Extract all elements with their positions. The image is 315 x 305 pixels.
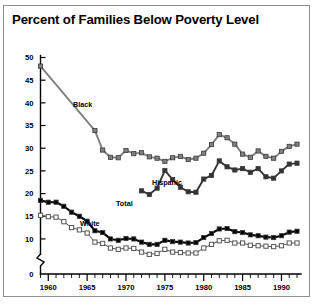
data-point-marker	[186, 190, 190, 194]
data-point-marker	[132, 246, 136, 250]
data-point-marker	[209, 242, 213, 246]
data-point-marker	[155, 242, 159, 246]
data-point-marker	[186, 241, 190, 245]
data-point-marker	[132, 237, 136, 241]
data-point-marker	[256, 234, 260, 238]
data-point-marker	[279, 244, 283, 248]
data-point-marker	[54, 200, 58, 204]
data-point-marker	[46, 215, 50, 219]
data-point-marker	[186, 157, 190, 161]
data-point-marker	[139, 151, 143, 155]
series-label-white: White	[80, 219, 100, 228]
series-black	[38, 64, 299, 163]
data-point-marker	[116, 247, 120, 251]
data-point-marker	[295, 241, 299, 245]
data-point-marker	[38, 64, 42, 68]
data-point-marker	[147, 252, 151, 256]
data-point-marker	[194, 240, 198, 244]
data-point-marker	[171, 240, 175, 244]
data-point-marker	[163, 159, 167, 163]
poverty-line-chart: 0101520253035404550196019651970197519801…	[0, 0, 315, 305]
data-point-marker	[108, 155, 112, 159]
data-point-marker	[279, 234, 283, 238]
data-point-marker	[225, 238, 229, 242]
x-axis-tick-label: 1975	[156, 283, 174, 292]
data-point-marker	[54, 215, 58, 219]
data-point-marker	[256, 167, 260, 171]
data-point-marker	[93, 240, 97, 244]
data-point-marker	[217, 133, 221, 137]
data-point-marker	[77, 228, 81, 232]
data-point-marker	[240, 230, 244, 234]
data-point-marker	[248, 243, 252, 247]
data-point-marker	[163, 247, 167, 251]
data-point-marker	[139, 250, 143, 254]
data-point-marker	[248, 233, 252, 237]
data-point-marker	[240, 152, 244, 156]
data-point-marker	[217, 239, 221, 243]
y-axis-tick-label: 20	[25, 189, 33, 198]
data-point-marker	[287, 162, 291, 166]
data-point-marker	[209, 173, 213, 177]
x-axis-tick-label: 1980	[195, 283, 212, 292]
data-point-marker	[147, 192, 151, 196]
data-point-marker	[147, 242, 151, 246]
y-axis-tick-label: 45	[25, 76, 34, 85]
data-point-marker	[264, 235, 268, 239]
data-point-marker	[108, 246, 112, 250]
data-point-marker	[202, 246, 206, 250]
y-axis-tick-label: 30	[25, 144, 33, 153]
series-total	[38, 198, 299, 246]
data-point-marker	[116, 156, 120, 160]
data-point-marker	[272, 156, 276, 160]
data-point-marker	[155, 156, 159, 160]
data-point-marker	[256, 149, 260, 153]
data-point-marker	[233, 142, 237, 146]
data-point-marker	[38, 198, 42, 202]
y-axis-tick-label: 35	[25, 121, 34, 130]
data-point-marker	[272, 245, 276, 249]
data-point-marker	[147, 155, 151, 159]
data-point-marker	[178, 154, 182, 158]
data-point-marker	[225, 226, 229, 230]
data-point-marker	[217, 159, 221, 163]
data-point-marker	[279, 149, 283, 153]
data-point-marker	[202, 235, 206, 239]
data-point-marker	[194, 190, 198, 194]
series-label-total: Total	[116, 199, 133, 208]
data-point-marker	[272, 176, 276, 180]
data-point-marker	[178, 250, 182, 254]
data-point-marker	[295, 142, 299, 146]
x-axis-tick-label: 1965	[79, 283, 97, 292]
data-point-marker	[132, 152, 136, 156]
data-point-marker	[287, 230, 291, 234]
data-point-marker	[194, 251, 198, 255]
data-point-marker	[287, 144, 291, 148]
data-point-marker	[46, 200, 50, 204]
data-point-marker	[225, 136, 229, 140]
data-point-marker	[171, 250, 175, 254]
data-point-marker	[62, 204, 66, 208]
data-point-marker	[108, 237, 112, 241]
data-point-marker	[93, 128, 97, 132]
data-point-marker	[139, 189, 143, 193]
y-axis-tick-label: 40	[25, 99, 33, 108]
data-point-marker	[124, 246, 128, 250]
data-point-marker	[101, 241, 105, 245]
data-point-marker	[202, 177, 206, 181]
data-point-marker	[209, 231, 213, 235]
data-point-marker	[38, 213, 42, 217]
data-point-marker	[62, 220, 66, 224]
data-point-marker	[209, 142, 213, 146]
data-point-marker	[264, 244, 268, 248]
data-point-marker	[139, 240, 143, 244]
data-point-marker	[272, 235, 276, 239]
data-point-marker	[186, 251, 190, 255]
x-axis-tick-label: 1970	[118, 283, 135, 292]
y-axis-tick-label: 15	[25, 212, 34, 221]
series-label-hispanic: Hispanic	[152, 178, 182, 187]
data-point-marker	[248, 170, 252, 174]
y-axis-tick-label: 10	[25, 235, 33, 244]
data-point-marker	[233, 241, 237, 245]
data-point-marker	[240, 241, 244, 245]
